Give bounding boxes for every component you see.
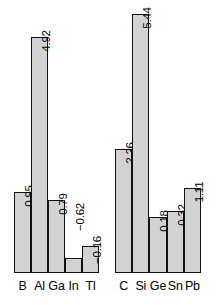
bar-al: 4.92 <box>31 37 48 273</box>
x-tick-b: B <box>14 278 31 294</box>
bar-value-si: 5.44 <box>141 7 153 29</box>
bar-ge: 0.18 <box>149 217 167 273</box>
bar-value-in: −0.62 <box>74 203 86 231</box>
bar-value-al: 4.92 <box>40 30 52 52</box>
bar-ga: 0.79 <box>48 200 65 273</box>
bar-si: 5.44 <box>132 14 149 273</box>
x-axis-labels: B Al Ga In Tl C Si Ge Sn Pb <box>0 278 216 300</box>
plot-area: 0.95 4.92 0.79 −0.62 −0.16 2.26 5.44 <box>0 0 216 276</box>
x-axis-group-14: C Si Ge Sn Pb <box>115 278 201 294</box>
bar-tl: −0.16 <box>82 246 99 273</box>
bar-group-14: 2.26 5.44 0.18 0.32 1.11 <box>115 0 201 276</box>
x-tick-tl: Tl <box>82 278 99 294</box>
bar-c: 2.26 <box>115 149 132 273</box>
bar-value-tl: −0.16 <box>91 236 103 264</box>
x-tick-pb: Pb <box>184 278 201 294</box>
x-tick-sn: Sn <box>167 278 184 294</box>
x-tick-in: In <box>65 278 82 294</box>
x-tick-ge: Ge <box>149 278 166 294</box>
bar-b: 0.95 <box>14 192 31 273</box>
bar-sn: 0.32 <box>167 211 184 273</box>
x-tick-c: C <box>115 278 132 294</box>
bar-value-pb: 1.11 <box>193 182 205 203</box>
x-axis-group-13: B Al Ga In Tl <box>14 278 99 294</box>
bar-pb: 1.11 <box>184 188 201 273</box>
bar-chart: 0.95 4.92 0.79 −0.62 −0.16 2.26 5.44 <box>0 0 216 305</box>
x-tick-al: Al <box>31 278 48 294</box>
bar-in: −0.62 <box>65 258 82 273</box>
x-tick-si: Si <box>132 278 149 294</box>
bar-group-13: 0.95 4.92 0.79 −0.62 −0.16 <box>14 0 99 276</box>
bar-value-ga: 0.79 <box>57 193 69 215</box>
x-tick-ga: Ga <box>48 278 65 294</box>
